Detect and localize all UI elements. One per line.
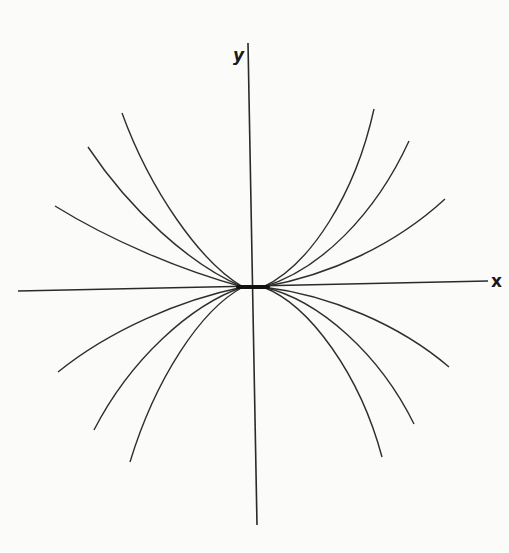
- trajectory-ll-2: [94, 287, 243, 430]
- trajectory-ur-1: [263, 199, 445, 287]
- x-axis-label: x: [491, 273, 502, 290]
- trajectory-ul-1: [55, 206, 243, 287]
- phase-portrait-diagram: y x: [0, 0, 509, 553]
- trajectory-ur-3: [263, 109, 374, 287]
- trajectory-lr-1: [263, 287, 449, 367]
- trajectory-lr-3: [263, 287, 382, 457]
- trajectory-ul-2: [88, 147, 243, 287]
- trajectory-ul-3: [122, 113, 243, 287]
- plot-area: [0, 0, 509, 553]
- trajectory-lr-2: [263, 287, 414, 424]
- y-axis-label: y: [233, 47, 244, 64]
- y-axis: [248, 43, 257, 525]
- trajectory-ur-2: [263, 141, 409, 287]
- trajectory-ll-3: [130, 287, 243, 462]
